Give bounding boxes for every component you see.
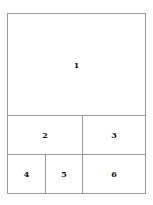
panel-6: 6 [83, 155, 145, 193]
panel-3: 3 [83, 116, 145, 154]
panel-3-label: 3 [111, 130, 117, 140]
panel-4: 4 [8, 155, 45, 193]
frame-bottom-border [7, 193, 146, 194]
panel-2: 2 [8, 116, 82, 154]
panel-5: 5 [46, 155, 82, 193]
panel-4-label: 4 [24, 169, 30, 179]
panel-1: 1 [8, 14, 145, 115]
panel-5-label: 5 [61, 169, 67, 179]
panel-6-label: 6 [111, 169, 117, 179]
panel-2-label: 2 [42, 130, 48, 140]
frame-right-border [145, 13, 146, 194]
panel-1-label: 1 [74, 60, 80, 70]
